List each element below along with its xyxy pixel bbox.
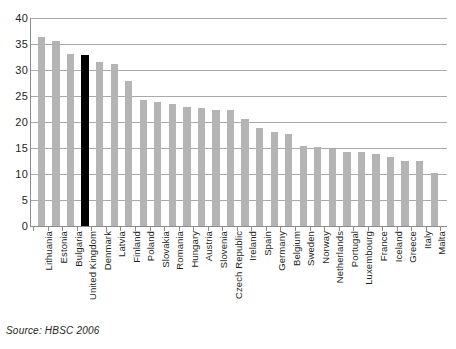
x-tick-label: United Kingdom [88,231,98,300]
bar [416,161,423,226]
bars-group [31,18,447,226]
x-tick-label: Slovakia [161,231,171,268]
x-tick-label: Malta [437,231,447,255]
bar [343,152,350,226]
bar [169,104,176,226]
x-tick-label: Germany [277,231,287,271]
x-tick-label: Finland [132,231,142,263]
bar [372,154,379,226]
x-tick-label: Norway [321,231,331,264]
bar [271,132,278,226]
x-tick-label: Ireland [248,231,258,261]
bar [241,119,248,226]
y-tick-label: 10 [2,169,28,180]
x-tick-label: Iceland [394,231,404,262]
y-tick-label: 25 [2,91,28,102]
y-tick-label: 5 [2,195,28,206]
bar [358,152,365,226]
y-tick-label: 15 [2,143,28,154]
x-tick-label: Greece [408,231,418,263]
x-tick-label: Romania [175,231,185,270]
bar [329,149,336,226]
y-tick-label: 0 [2,221,28,232]
bar [125,81,132,226]
x-tick-label: Belgium [292,231,302,266]
y-tick-label: 35 [2,39,28,50]
bar [111,64,118,226]
source-note: Source: HBSC 2006 [6,325,99,336]
bar [140,100,147,226]
y-tick-label: 30 [2,65,28,76]
bar [212,110,219,226]
x-tick-label: Italy [423,231,433,249]
x-tick-label: Spain [263,231,273,256]
x-tick-label: Austria [204,231,214,261]
x-tick-label: Estonia [59,231,69,263]
x-axis: LithuaniaEstoniaBulgariaUnited KingdomDe… [30,231,446,311]
bar [154,102,161,226]
bar [67,54,74,226]
bar [38,37,45,226]
y-tick-label: 40 [2,13,28,24]
x-tick-label: Czech Republic [234,231,244,299]
bar [183,107,190,226]
x-tick-label: Sweden [306,231,316,266]
bar [256,128,263,226]
bar [314,147,321,226]
x-tick-label: France [379,231,389,261]
y-axis: 0510152025303540 [0,0,28,349]
x-tick-label: Denmark [103,231,113,270]
bar [431,173,438,226]
bar [52,41,59,226]
plot-area [30,18,447,227]
bar [285,134,292,226]
bar [81,55,88,226]
bar [401,161,408,226]
y-tick-label: 20 [2,117,28,128]
x-tick-label: Lithuania [44,231,54,270]
bar [300,146,307,226]
x-tick-label: Hungary [190,231,200,268]
x-tick-label: Latvia [117,231,127,257]
x-tick-label: Bulgaria [74,231,84,267]
x-tick-label: Netherlands [335,231,345,283]
bar [96,62,103,226]
x-tick-label: Slovenia [219,231,229,268]
bar [387,157,394,226]
bar [198,108,205,226]
x-tick-label: Luxembourg [364,231,374,285]
bar-chart: 0510152025303540 LithuaniaEstoniaBulgari… [0,0,456,349]
x-tick-label: Poland [146,231,156,261]
bar [227,110,234,226]
x-tick-label: Portugal [350,231,360,267]
